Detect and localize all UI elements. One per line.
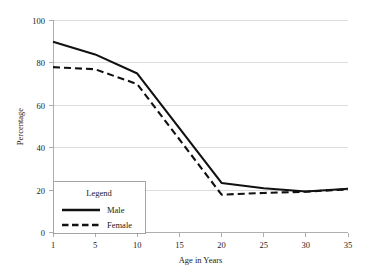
x-tick-label-15: 15 bbox=[175, 240, 184, 250]
x-tick-label-25: 25 bbox=[259, 240, 268, 250]
y-tick-label-60: 60 bbox=[37, 101, 46, 111]
chart-figure: 100 80 60 40 20 0 1 5 10 15 20 25 30 35 … bbox=[0, 0, 369, 275]
legend: Legend Male Female bbox=[53, 181, 145, 233]
y-tick-label-40: 40 bbox=[37, 143, 46, 153]
line-chart: 100 80 60 40 20 0 1 5 10 15 20 25 30 35 … bbox=[0, 0, 369, 275]
legend-label-female: Female bbox=[107, 220, 132, 230]
x-tick-label-35: 35 bbox=[344, 240, 353, 250]
legend-title: Legend bbox=[86, 188, 112, 198]
x-tick-label-5: 5 bbox=[93, 240, 97, 250]
y-tick-label-100: 100 bbox=[32, 16, 45, 26]
x-tick-label-1: 1 bbox=[51, 240, 55, 250]
x-tick-label-30: 30 bbox=[302, 240, 311, 250]
x-tick-label-10: 10 bbox=[133, 240, 142, 250]
chart-background bbox=[0, 0, 369, 275]
y-tick-label-20: 20 bbox=[37, 186, 46, 196]
x-axis-title: Age in Years bbox=[179, 255, 223, 265]
y-tick-label-80: 80 bbox=[37, 58, 46, 68]
y-tick-label-0: 0 bbox=[41, 228, 45, 238]
y-axis-title: Percentage bbox=[15, 108, 25, 146]
legend-label-male: Male bbox=[107, 205, 125, 215]
x-tick-label-20: 20 bbox=[217, 240, 226, 250]
